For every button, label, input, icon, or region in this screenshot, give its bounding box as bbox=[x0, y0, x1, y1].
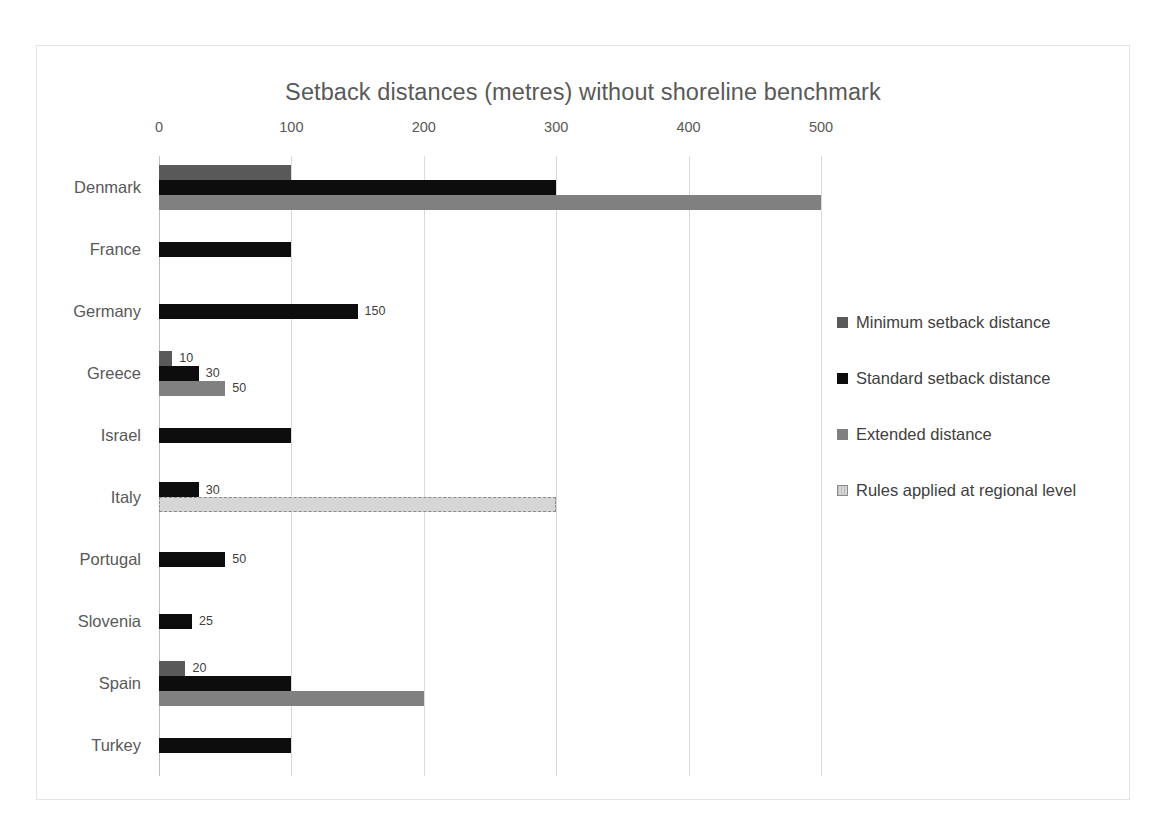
category-row: Germany150 bbox=[159, 280, 821, 342]
x-tick-label-0: 0 bbox=[155, 119, 163, 135]
bar-value-label: 30 bbox=[206, 483, 220, 497]
category-label-israel: Israel bbox=[101, 426, 141, 445]
category-label-turkey: Turkey bbox=[91, 736, 141, 755]
category-row: Israel bbox=[159, 404, 821, 466]
bar-group bbox=[159, 156, 821, 218]
category-row: Turkey bbox=[159, 714, 821, 776]
legend-label: Extended distance bbox=[856, 425, 992, 444]
legend-swatch-icon-regional bbox=[837, 485, 848, 496]
legend-label: Minimum setback distance bbox=[856, 313, 1050, 332]
bar-slot: 50 bbox=[159, 552, 821, 567]
bar-italy-regional[interactable] bbox=[159, 497, 556, 512]
bar-group: 20 bbox=[159, 652, 821, 714]
bar-portugal-standard[interactable] bbox=[159, 552, 225, 567]
x-tick-label-100: 100 bbox=[279, 119, 303, 135]
legend-swatch-icon-minimum bbox=[837, 317, 848, 328]
legend-label: Rules applied at regional level bbox=[856, 481, 1076, 500]
category-label-germany: Germany bbox=[73, 302, 141, 321]
bar-germany-standard[interactable] bbox=[159, 304, 358, 319]
bar-slot: 150 bbox=[159, 304, 821, 319]
legend-item-regional[interactable]: Rules applied at regional level bbox=[837, 462, 1076, 518]
category-label-italy: Italy bbox=[111, 488, 141, 507]
bar-slot: 20 bbox=[159, 661, 821, 676]
category-row: Spain20 bbox=[159, 652, 821, 714]
category-label-portugal: Portugal bbox=[80, 550, 141, 569]
legend-swatch-icon-extended bbox=[837, 429, 848, 440]
chart-title: Setback distances (metres) without shore… bbox=[37, 79, 1129, 106]
bar-spain-extended[interactable] bbox=[159, 691, 424, 706]
bar-slot bbox=[159, 195, 821, 210]
category-label-denmark: Denmark bbox=[74, 178, 141, 197]
x-tick-label-500: 500 bbox=[809, 119, 833, 135]
bar-group: 30 bbox=[159, 466, 821, 528]
category-row: Greece103050 bbox=[159, 342, 821, 404]
bar-spain-standard[interactable] bbox=[159, 676, 291, 691]
bar-france-standard[interactable] bbox=[159, 242, 291, 257]
bar-turkey-standard[interactable] bbox=[159, 738, 291, 753]
bar-slot bbox=[159, 497, 821, 512]
category-row: Portugal50 bbox=[159, 528, 821, 590]
bar-group bbox=[159, 714, 821, 776]
x-tick-label-300: 300 bbox=[544, 119, 568, 135]
bar-slot: 10 bbox=[159, 351, 821, 366]
category-label-france: France bbox=[90, 240, 141, 259]
bar-slot bbox=[159, 242, 821, 257]
bar-slot: 30 bbox=[159, 482, 821, 497]
bar-greece-minimum[interactable] bbox=[159, 351, 172, 366]
legend-item-extended[interactable]: Extended distance bbox=[837, 406, 1076, 462]
bar-israel-standard[interactable] bbox=[159, 428, 291, 443]
bar-slot bbox=[159, 676, 821, 691]
bar-slot: 50 bbox=[159, 381, 821, 396]
bar-group bbox=[159, 404, 821, 466]
bar-slot bbox=[159, 180, 821, 195]
bar-value-label: 50 bbox=[232, 381, 246, 395]
chart-frame: Setback distances (metres) without shore… bbox=[36, 45, 1130, 800]
bar-slot bbox=[159, 738, 821, 753]
bar-value-label: 150 bbox=[365, 304, 386, 318]
gridline-500 bbox=[821, 156, 822, 776]
category-label-greece: Greece bbox=[87, 364, 141, 383]
bar-slot: 25 bbox=[159, 614, 821, 629]
plot-area: 0100200300400500 DenmarkFranceGermany150… bbox=[159, 156, 821, 776]
bar-value-label: 25 bbox=[199, 614, 213, 628]
bar-group: 103050 bbox=[159, 342, 821, 404]
x-tick-label-200: 200 bbox=[412, 119, 436, 135]
bar-greece-standard[interactable] bbox=[159, 366, 199, 381]
category-row: Italy30 bbox=[159, 466, 821, 528]
bar-greece-extended[interactable] bbox=[159, 381, 225, 396]
bar-denmark-minimum[interactable] bbox=[159, 165, 291, 180]
x-tick-label-400: 400 bbox=[676, 119, 700, 135]
bar-slot bbox=[159, 691, 821, 706]
bar-slot: 30 bbox=[159, 366, 821, 381]
chart-legend: Minimum setback distanceStandard setback… bbox=[837, 294, 1076, 518]
bar-slot bbox=[159, 428, 821, 443]
category-label-slovenia: Slovenia bbox=[78, 612, 141, 631]
category-row: Denmark bbox=[159, 156, 821, 218]
bar-value-label: 30 bbox=[206, 366, 220, 380]
category-row: Slovenia25 bbox=[159, 590, 821, 652]
bar-denmark-extended[interactable] bbox=[159, 195, 821, 210]
bar-value-label: 20 bbox=[192, 661, 206, 675]
bar-value-label: 50 bbox=[232, 552, 246, 566]
bar-group: 150 bbox=[159, 280, 821, 342]
category-label-spain: Spain bbox=[99, 674, 141, 693]
bar-value-label: 10 bbox=[179, 351, 193, 365]
legend-item-standard[interactable]: Standard setback distance bbox=[837, 350, 1076, 406]
category-row: France bbox=[159, 218, 821, 280]
bar-spain-minimum[interactable] bbox=[159, 661, 185, 676]
bar-group: 25 bbox=[159, 590, 821, 652]
bar-group: 50 bbox=[159, 528, 821, 590]
bar-slot bbox=[159, 165, 821, 180]
legend-item-minimum[interactable]: Minimum setback distance bbox=[837, 294, 1076, 350]
legend-swatch-icon-standard bbox=[837, 373, 848, 384]
bar-italy-standard[interactable] bbox=[159, 482, 199, 497]
bar-group bbox=[159, 218, 821, 280]
bar-denmark-standard[interactable] bbox=[159, 180, 556, 195]
bar-slovenia-standard[interactable] bbox=[159, 614, 192, 629]
legend-label: Standard setback distance bbox=[856, 369, 1050, 388]
